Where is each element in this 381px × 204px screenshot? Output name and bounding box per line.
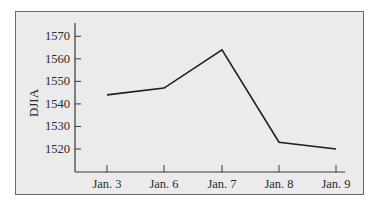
y-tick-label: 1570 — [45, 29, 70, 43]
y-tick-label: 1530 — [45, 119, 70, 133]
y-tick-label: 1540 — [45, 97, 70, 111]
x-tick-label: Jan. 3 — [92, 177, 121, 191]
djia-line — [107, 50, 336, 149]
x-tick-label: Jan. 9 — [321, 177, 350, 191]
x-tick-label: Jan. 8 — [264, 177, 293, 191]
y-axis-label: DJIA — [26, 88, 41, 117]
axes — [75, 23, 345, 172]
x-tick-label: Jan. 6 — [149, 177, 178, 191]
y-tick-label: 1560 — [45, 52, 70, 66]
y-tick-label: 1550 — [45, 74, 70, 88]
line-chart: 152015301540155015601570 Jan. 3Jan. 6Jan… — [0, 0, 381, 204]
x-tick-label: Jan. 7 — [207, 177, 236, 191]
x-axis-ticks: Jan. 3Jan. 6Jan. 7Jan. 8Jan. 9 — [92, 165, 350, 191]
y-tick-label: 1520 — [45, 142, 70, 156]
